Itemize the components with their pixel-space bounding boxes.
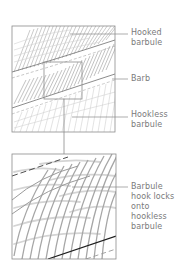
label-barb: Barb: [131, 74, 150, 84]
label-barb-line1: Barb: [131, 74, 150, 84]
label-hook-locks-line2: hook locks: [131, 192, 174, 202]
label-hook-locks-line3: onto: [131, 202, 174, 212]
label-hookless-barbule-line2: barbule: [131, 120, 168, 130]
label-hookless-barbule-line1: Hookless: [131, 110, 168, 120]
hooked-barbule-hatching: [14, 22, 120, 72]
label-hooked-barbule-line1: Hooked: [131, 28, 162, 38]
label-hookless-barbule: Hookless barbule: [131, 110, 168, 130]
label-hook-locks-line4: hookless: [131, 212, 174, 222]
hookless-barbule-hatching: [14, 80, 118, 132]
label-hooked-barbule-line2: barbule: [131, 38, 162, 48]
label-hook-locks-line5: barbule: [131, 222, 174, 232]
barb-hatching: [14, 42, 118, 104]
label-hook-locks: Barbule hook locks onto hookless barbule: [131, 182, 174, 232]
overview-panel: [12, 22, 120, 132]
label-hooked-barbule: Hooked barbule: [131, 28, 162, 48]
magnified-panel: [12, 154, 118, 259]
label-hook-locks-line1: Barbule: [131, 182, 174, 192]
